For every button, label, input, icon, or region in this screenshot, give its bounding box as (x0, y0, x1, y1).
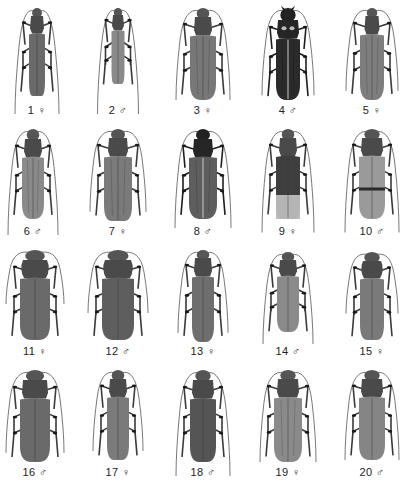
specimen-label: 18♂ (163, 466, 243, 478)
beetle-male-icon (332, 368, 408, 478)
specimen-16: 16♂ (0, 0, 75, 490)
specimen-number: 20 (360, 466, 373, 478)
female-symbol-icon: ♀ (122, 466, 131, 478)
specimen-plate: 1♀2♂3♀4♂5♀6♂7♀8♂9♀10♂11♀12♂13♀14♂15♀16♂1… (0, 0, 408, 490)
specimen-number: 19 (276, 466, 289, 478)
specimen-19: 19♀ (248, 0, 328, 490)
male-symbol-icon: ♂ (376, 466, 385, 478)
male-symbol-icon: ♂ (39, 466, 48, 478)
beetle-female-icon (248, 368, 328, 478)
specimen-20: 20♂ (332, 0, 408, 490)
beetle-male-icon (0, 368, 75, 478)
specimen-17: 17♀ (78, 0, 158, 490)
specimen-number: 18 (191, 466, 204, 478)
female-symbol-icon: ♀ (292, 466, 301, 478)
beetle-female-icon (78, 368, 158, 478)
specimen-label: 20♂ (332, 466, 408, 478)
specimen-label: 16♂ (0, 466, 75, 478)
beetle-male-icon (163, 368, 243, 478)
specimen-number: 16 (23, 466, 36, 478)
specimen-label: 19♀ (248, 466, 328, 478)
specimen-label: 17♀ (78, 466, 158, 478)
specimen-18: 18♂ (163, 0, 243, 490)
specimen-number: 17 (106, 466, 119, 478)
male-symbol-icon: ♂ (207, 466, 216, 478)
